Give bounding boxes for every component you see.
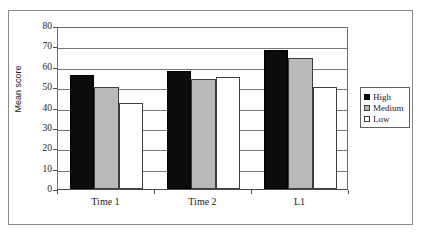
y-axis-tick-label: 20 [24,144,52,154]
y-axis-tick-label: 50 [24,83,52,93]
legend-swatch-icon [364,116,370,122]
x-axis-tick-label: Time 1 [57,196,154,208]
x-axis-tick-mark [154,190,155,194]
legend-swatch-icon [364,105,370,111]
x-axis-tick-label: Time 2 [154,196,251,208]
y-axis-tick-label: 10 [24,165,52,175]
chart-figure: Mean score 80706050403020100 Time 1Time … [0,0,421,234]
plot-area [57,27,348,190]
chart-legend: HighMediumLow [360,87,410,128]
legend-item-medium: Medium [364,102,406,113]
bar-medium-0 [94,87,118,189]
bar-high-0 [70,75,94,189]
y-axis-tick-label: 40 [24,104,52,114]
bar-high-2 [264,50,288,189]
legend-label: Low [373,114,390,124]
x-axis-tick-label: L1 [251,196,348,208]
bar-medium-2 [288,58,312,189]
bar-low-0 [119,103,143,189]
y-axis-tick-label: 60 [24,63,52,73]
bar-medium-1 [191,79,215,189]
legend-item-high: High [364,91,406,102]
bar-low-2 [313,87,337,189]
y-axis-tick-label: 80 [24,22,52,32]
bar-high-1 [167,71,191,189]
gridline [58,48,347,49]
legend-label: High [373,92,391,102]
bar-low-1 [216,77,240,189]
legend-item-low: Low [364,113,406,124]
x-axis-tick-mark [251,190,252,194]
y-axis-tick-label: 30 [24,124,52,134]
y-axis-title: Mean score [13,53,23,125]
y-axis-tick-label: 0 [24,185,52,195]
y-axis-tick-label: 70 [24,42,52,52]
legend-label: Medium [373,103,404,113]
x-axis-tick-mark [348,190,349,194]
x-axis-tick-mark [57,190,58,194]
legend-swatch-icon [364,94,370,100]
